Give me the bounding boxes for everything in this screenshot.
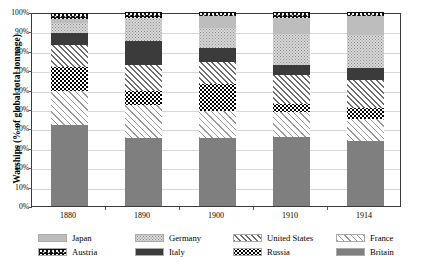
- x-axis-tick-labels: 18801890190019101914: [31, 210, 401, 222]
- bar-segment-japan-1910: [273, 18, 310, 34]
- legend-item-britain[interactable]: Britain: [336, 246, 394, 257]
- bar-segment-italy-1910: [273, 65, 310, 75]
- legend-swatch-austria: [38, 248, 67, 256]
- bar-segment-united-states-1880: [51, 45, 88, 67]
- legend-swatch-britain: [336, 248, 365, 256]
- bar-segment-france-1914: [347, 119, 384, 141]
- bar-segment-russia-1890: [125, 91, 162, 106]
- bar-segment-germany-1914: [347, 35, 384, 68]
- bar-segment-austria-1890: [125, 12, 162, 18]
- bar-segment-germany-1880: [51, 23, 88, 34]
- bar-segment-united-states-1914: [347, 80, 384, 108]
- legend-item-germany[interactable]: Germany: [135, 232, 201, 243]
- bar-segment-austria-1914: [347, 12, 384, 16]
- plot-area: [31, 13, 401, 207]
- legend-item-austria[interactable]: Austria: [38, 246, 97, 257]
- y-axis-tick-mark: [29, 129, 32, 130]
- x-axis-tick-label: 1880: [38, 210, 98, 221]
- bar-segment-austria-1900: [199, 12, 236, 16]
- y-axis-tick-label: 0%: [0, 203, 29, 211]
- legend-label: France: [370, 233, 393, 243]
- y-axis-tick-label: 70%: [0, 67, 29, 75]
- bar-segment-united-states-1890: [125, 65, 162, 90]
- legend-item-italy[interactable]: Italy: [135, 246, 185, 257]
- y-axis-tick-mark: [29, 207, 32, 208]
- y-axis-tick-mark: [29, 91, 32, 92]
- y-axis-tick-labels: 0%10%20%30%40%50%60%70%80%90%100%: [0, 13, 29, 207]
- y-axis-tick-label: 50%: [0, 106, 29, 114]
- bar-segment-germany-1890: [125, 18, 162, 41]
- bar-segment-japan-1914: [347, 16, 384, 35]
- bar-segment-germany-1910: [273, 34, 310, 65]
- y-axis-tick-mark: [29, 110, 32, 111]
- x-axis-tick-label: 1914: [334, 210, 394, 221]
- legend-item-france[interactable]: France: [336, 232, 393, 243]
- bar-segment-russia-1914: [347, 108, 384, 119]
- bar-segment-russia-1910: [273, 104, 310, 112]
- bar-segment-united-states-1900: [199, 62, 236, 83]
- stacked-bar-chart: Warships (% of global total tonnage) 0%1…: [0, 0, 433, 271]
- x-axis-tick-mark: [179, 207, 180, 210]
- legend-label: Japan: [72, 233, 92, 243]
- y-axis-tick-mark: [29, 168, 32, 169]
- bar-segment-austria-1880: [51, 13, 88, 19]
- bar-segment-italy-1890: [125, 41, 162, 65]
- bar-segment-france-1900: [199, 111, 236, 138]
- bar-segment-germany-1900: [199, 28, 236, 48]
- bar-segment-italy-1880: [51, 33, 88, 45]
- y-axis-tick-label: 20%: [0, 164, 29, 172]
- legend-swatch-france: [336, 234, 365, 242]
- y-axis-tick-label: 60%: [0, 87, 29, 95]
- bar-segment-britain-1900: [199, 138, 236, 206]
- legend-item-japan[interactable]: Japan: [38, 232, 92, 243]
- bar-1914: [347, 14, 384, 206]
- y-axis-tick-label: 40%: [0, 125, 29, 133]
- bar-segment-britain-1910: [273, 137, 310, 206]
- legend-swatch-united-states: [233, 234, 262, 242]
- y-axis-tick-label: 10%: [0, 184, 29, 192]
- bar-1890: [125, 14, 162, 206]
- bar-segment-france-1880: [51, 91, 88, 125]
- legend-label: Germany: [169, 233, 201, 243]
- y-axis-tick-mark: [29, 52, 32, 53]
- bar-segment-britain-1890: [125, 138, 162, 206]
- y-axis-tick-mark: [29, 188, 32, 189]
- legend-item-united-states[interactable]: United States: [233, 232, 313, 243]
- y-axis-tick-label: 30%: [0, 145, 29, 153]
- bar-segment-france-1890: [125, 105, 162, 138]
- x-axis-tick-label: 1900: [186, 210, 246, 221]
- y-axis-tick-label: 100%: [0, 9, 29, 17]
- bar-segment-italy-1900: [199, 48, 236, 63]
- bar-segment-france-1910: [273, 112, 310, 137]
- legend-swatch-russia: [233, 248, 262, 256]
- bar-segment-russia-1880: [51, 67, 88, 90]
- y-axis-tick-mark: [29, 149, 32, 150]
- legend-swatch-germany: [135, 234, 164, 242]
- x-axis-tick-mark: [253, 207, 254, 210]
- legend-label: Austria: [72, 247, 97, 257]
- bar-1900: [199, 14, 236, 206]
- legend-label: Italy: [169, 247, 185, 257]
- bar-1910: [273, 14, 310, 206]
- bar-1880: [51, 14, 88, 206]
- chart-legend: JapanGermanyUnited StatesFranceAustriaIt…: [38, 232, 428, 262]
- bar-segment-united-states-1910: [273, 75, 310, 104]
- legend-swatch-japan: [38, 234, 67, 242]
- bar-segment-britain-1880: [51, 125, 88, 206]
- bar-segment-austria-1910: [273, 12, 310, 18]
- x-axis-tick-mark: [327, 207, 328, 210]
- x-axis-tick-label: 1910: [260, 210, 320, 221]
- legend-item-russia[interactable]: Russia: [233, 246, 290, 257]
- y-axis-tick-label: 80%: [0, 48, 29, 56]
- y-axis-tick-mark: [29, 13, 32, 14]
- bar-segment-japan-1880: [51, 19, 88, 23]
- legend-label: Russia: [267, 247, 290, 257]
- legend-label: United States: [267, 233, 313, 243]
- bar-segment-russia-1900: [199, 84, 236, 111]
- bar-segment-japan-1900: [199, 16, 236, 28]
- bar-segment-britain-1914: [347, 141, 384, 206]
- y-axis-tick-mark: [29, 32, 32, 33]
- legend-swatch-italy: [135, 248, 164, 256]
- x-axis-tick-mark: [105, 207, 106, 210]
- x-axis-tick-label: 1890: [112, 210, 172, 221]
